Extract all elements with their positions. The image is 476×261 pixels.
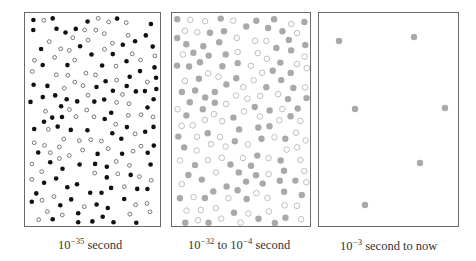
filled-particle [124,84,129,89]
hollow-particle [179,181,185,187]
filled-particle [63,30,68,35]
filled-particle [45,84,50,89]
hollow-particle [57,145,61,149]
hollow-particle [114,122,118,126]
hollow-particle [264,56,270,62]
hollow-particle [114,64,118,68]
filled-particle [183,112,189,118]
filled-particle [266,107,272,113]
filled-particle [227,161,233,167]
filled-particle [236,169,242,175]
hollow-particle [106,147,110,151]
hollow-particle [257,93,263,99]
filled-particle [125,125,130,130]
filled-particle [41,95,46,100]
panel-3 [318,12,459,227]
filled-particle [411,34,417,40]
hollow-particle [298,157,304,163]
filled-particle [111,89,116,94]
filled-particle [253,18,259,24]
filled-particle [60,166,65,171]
hollow-particle [298,118,304,124]
caption-exponent: −35 [71,236,84,246]
hollow-particle [191,194,197,200]
filled-particle [199,176,205,182]
hollow-particle [30,178,34,182]
hollow-particle [47,127,51,131]
filled-particle [174,16,180,22]
filled-particle [90,219,95,224]
filled-particle [243,178,249,184]
filled-particle [202,94,208,100]
filled-particle [143,89,148,94]
filled-particle [110,131,115,136]
hollow-particle [194,134,200,140]
hollow-particle [276,117,282,123]
hollow-particle [294,203,300,209]
particles-panel-3 [319,13,460,228]
filled-particle [255,216,261,222]
hollow-particle [248,63,254,69]
filled-particle [417,160,423,166]
filled-particle [290,85,296,91]
filled-particle [88,190,93,195]
filled-particle [50,16,55,21]
hollow-particle [96,16,100,20]
filled-particle [186,63,192,69]
filled-particle [182,220,188,226]
hollow-particle [111,41,115,45]
filled-particle [64,97,69,102]
filled-particle [60,115,65,120]
filled-particle [76,211,81,216]
filled-particle [230,114,236,120]
filled-particle [206,52,212,58]
hollow-particle [180,52,186,58]
filled-particle [277,178,283,184]
hollow-particle [205,71,211,77]
hollow-particle [138,175,142,179]
hollow-particle [213,205,219,211]
hollow-particle [219,118,225,124]
filled-particle [69,128,74,133]
hollow-particle [275,91,281,97]
filled-particle [111,52,116,57]
filled-particle [122,197,127,202]
hollow-particle [202,18,208,24]
caption-exponent-2: −4 [243,236,252,246]
filled-particle [100,214,105,219]
hollow-particle [153,54,157,58]
hollow-particle [182,28,188,34]
hollow-particle [54,73,58,77]
hollow-particle [40,198,44,202]
caption-panel-2: 10−32 to 10−4 second [188,236,290,253]
filled-particle [65,63,70,68]
hollow-particle [223,144,229,150]
filled-particle [234,187,240,193]
hollow-particle [298,216,304,222]
filled-particle [286,37,292,43]
filled-particle [149,22,154,27]
filled-particle [303,95,309,101]
filled-particle [272,220,278,226]
hollow-particle [195,218,201,224]
filled-particle [109,186,114,191]
filled-particle [40,63,45,68]
hollow-particle [245,96,251,102]
hollow-particle [67,49,71,53]
filled-particle [243,23,249,29]
filled-particle [28,100,33,105]
hollow-particle [149,178,153,182]
filled-particle [54,176,59,181]
filled-particle [287,113,293,119]
filled-particle [265,25,271,31]
hollow-particle [139,58,143,62]
hollow-particle [175,106,181,112]
hollow-particle [182,78,188,84]
caption-exponent: −32 [201,236,214,246]
hollow-particle [284,147,290,153]
hollow-particle [77,139,81,143]
hollow-particle [294,61,300,67]
filled-particle [124,59,129,64]
filled-particle [75,182,80,187]
filled-particle [260,180,266,186]
